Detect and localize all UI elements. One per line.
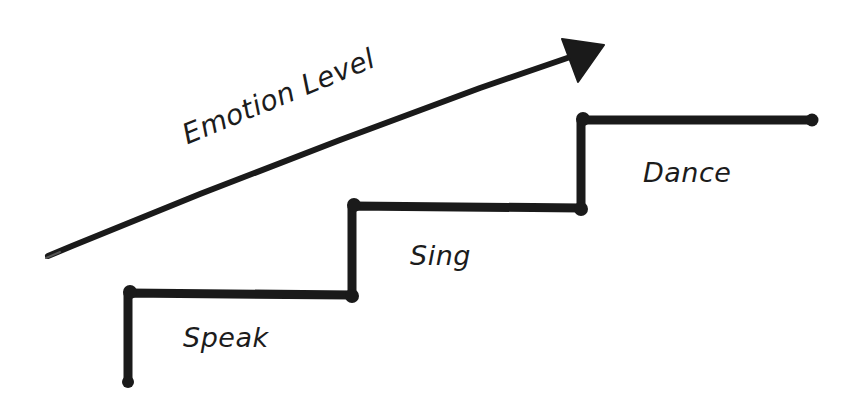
step-label-speak: Speak [183,322,269,353]
step-node-end [806,114,819,127]
step-label-dance: Dance [643,157,731,188]
diagram-canvas [0,0,859,416]
step-node-corner [347,198,361,212]
step-node-corner [123,285,137,299]
step-node-corner [345,289,359,303]
step-label-sing: Sing [410,240,471,271]
step-node-corner [574,202,588,216]
step-node-corner [576,112,590,126]
step-node-start [122,376,134,388]
